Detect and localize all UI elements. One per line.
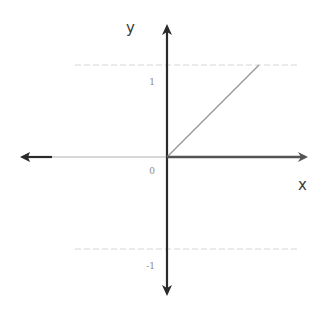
series <box>167 65 308 162</box>
y-tick-label: -1 <box>146 261 155 271</box>
x-axis-label: x <box>298 176 307 194</box>
y-tick-label: 1 <box>149 77 155 87</box>
y-tick-label: 0 <box>149 166 155 176</box>
chart: y x 10-1 <box>0 0 329 311</box>
series-diagonal <box>167 65 259 157</box>
y-axis-label: y <box>126 19 135 37</box>
labels: y x 10-1 <box>126 19 307 271</box>
